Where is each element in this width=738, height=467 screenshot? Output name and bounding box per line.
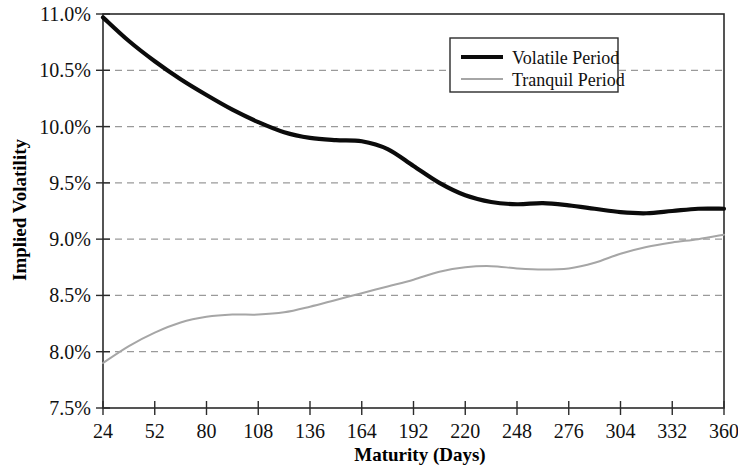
x-tick-label: 136 bbox=[295, 420, 325, 442]
series-line-tranquil-period bbox=[103, 235, 724, 363]
x-axis-title: Maturity (Days) bbox=[354, 444, 485, 466]
x-tick-label: 192 bbox=[399, 420, 429, 442]
x-tick-label: 24 bbox=[93, 420, 113, 442]
y-tick-label: 9.0% bbox=[49, 228, 91, 250]
chart-canvas: 7.5%8.0%8.5%9.0%9.5%10.0%10.5%11.0% 2452… bbox=[0, 0, 738, 467]
chart-legend: Volatile Period Tranquil Period bbox=[450, 38, 625, 92]
y-tick-label: 8.5% bbox=[49, 284, 91, 306]
x-tick-label: 332 bbox=[657, 420, 687, 442]
y-axis-title: Implied Volatility bbox=[9, 139, 30, 281]
x-tick-label: 220 bbox=[450, 420, 480, 442]
x-tick-label: 52 bbox=[145, 420, 165, 442]
y-tick-label: 8.0% bbox=[49, 341, 91, 363]
series-line-volatile-period bbox=[103, 17, 724, 213]
x-tick-label: 108 bbox=[243, 420, 273, 442]
y-tick-label: 10.5% bbox=[39, 59, 91, 81]
x-tick-label: 164 bbox=[347, 420, 377, 442]
x-tick-label: 248 bbox=[502, 420, 532, 442]
y-tick-label: 7.5% bbox=[49, 397, 91, 419]
legend-label-tranquil-period: Tranquil Period bbox=[512, 70, 625, 90]
x-tick-label: 276 bbox=[554, 420, 584, 442]
x-tick-label: 360 bbox=[709, 420, 738, 442]
legend-label-volatile-period: Volatile Period bbox=[512, 48, 619, 68]
y-tick-label: 9.5% bbox=[49, 172, 91, 194]
x-axis-tick-labels: 245280108136164192220248276304332360 bbox=[93, 420, 738, 442]
x-tick-label: 80 bbox=[197, 420, 217, 442]
x-tick-label: 304 bbox=[606, 420, 636, 442]
y-tick-label: 11.0% bbox=[40, 3, 91, 25]
y-axis-tick-labels: 7.5%8.0%8.5%9.0%9.5%10.0%10.5%11.0% bbox=[39, 3, 91, 419]
y-tick-label: 10.0% bbox=[39, 116, 91, 138]
implied-volatility-chart: 7.5%8.0%8.5%9.0%9.5%10.0%10.5%11.0% 2452… bbox=[0, 0, 738, 467]
